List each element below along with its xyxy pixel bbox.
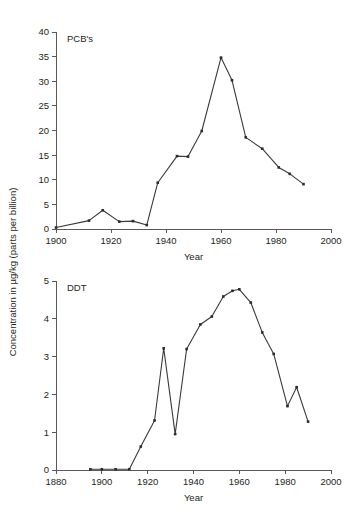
data-point: [295, 386, 298, 389]
series-line: [90, 289, 308, 469]
x-tick-label: 1980: [265, 235, 286, 246]
data-point: [153, 419, 156, 422]
dual-line-chart: 0510152025303540190019201940196019802000…: [0, 0, 344, 517]
y-axis-title-group: Concentration in µg/kg (parts per billio…: [7, 188, 18, 357]
data-series-pcbs: [55, 56, 305, 229]
data-point: [88, 219, 91, 222]
axis-lines: [56, 32, 331, 229]
data-point: [261, 147, 264, 150]
figure-container: 0510152025303540190019201940196019802000…: [0, 0, 344, 517]
x-tick-label: 1940: [183, 476, 204, 487]
x-axis-ticks: 190019201940196019802000: [45, 229, 341, 246]
data-point: [261, 331, 264, 334]
series-line: [56, 58, 304, 228]
x-tick-label: 1960: [229, 476, 250, 487]
y-tick-label: 2: [44, 389, 49, 400]
axis-lines: [56, 281, 331, 470]
data-point: [174, 433, 177, 436]
data-point: [277, 166, 280, 169]
data-point: [101, 468, 104, 471]
y-axis-ticks: 012345: [44, 275, 56, 475]
x-axis-title: Year: [184, 492, 203, 503]
data-point: [185, 348, 188, 351]
x-tick-label: 1900: [45, 235, 66, 246]
x-tick-label: 1980: [275, 476, 296, 487]
data-point: [272, 353, 275, 356]
data-point: [114, 468, 117, 471]
y-tick-label: 15: [38, 150, 49, 161]
y-tick-label: 20: [38, 125, 49, 136]
data-point: [145, 224, 148, 227]
x-tick-label: 1900: [91, 476, 112, 487]
y-tick-label: 35: [38, 51, 49, 62]
data-point: [286, 405, 289, 408]
data-point: [176, 155, 179, 158]
data-point: [249, 301, 252, 304]
data-series-ddt: [89, 288, 309, 471]
data-point: [238, 288, 241, 291]
data-point: [307, 420, 310, 423]
data-point: [244, 136, 247, 139]
data-point: [220, 56, 223, 59]
data-point: [288, 173, 291, 176]
x-tick-label: 2000: [320, 235, 341, 246]
data-point: [139, 445, 142, 448]
data-point: [55, 226, 58, 229]
y-tick-label: 0: [44, 464, 49, 475]
panel-title: DDT: [67, 282, 87, 293]
y-tick-label: 5: [44, 275, 49, 286]
data-point: [222, 295, 225, 298]
data-point: [302, 183, 305, 186]
x-tick-label: 2000: [320, 476, 341, 487]
y-tick-label: 10: [38, 174, 49, 185]
y-tick-label: 1: [44, 427, 49, 438]
data-point: [199, 323, 202, 326]
panel-title: PCB's: [67, 33, 93, 44]
y-tick-label: 30: [38, 76, 49, 87]
x-tick-label: 1880: [45, 476, 66, 487]
y-axis-ticks: 0510152025303540: [38, 26, 56, 234]
data-point: [156, 181, 159, 184]
data-point: [231, 79, 234, 82]
y-tick-label: 5: [44, 199, 49, 210]
y-tick-label: 3: [44, 351, 49, 362]
data-point: [128, 468, 131, 471]
chart-panel-ddt: 0123451880190019201940196019802000YearDD…: [44, 275, 342, 503]
x-tick-label: 1920: [100, 235, 121, 246]
y-axis-title: Concentration in µg/kg (parts per billio…: [7, 188, 18, 357]
y-tick-label: 4: [44, 313, 49, 324]
data-point: [162, 347, 165, 350]
data-point: [231, 290, 234, 293]
chart-panel-pcbs: 0510152025303540190019201940196019802000…: [38, 26, 341, 262]
data-point: [101, 209, 104, 212]
y-tick-label: 40: [38, 26, 49, 37]
data-point: [211, 315, 214, 318]
x-axis-title: Year: [184, 251, 203, 262]
data-point: [118, 220, 121, 223]
data-point: [132, 220, 135, 223]
y-tick-label: 0: [44, 223, 49, 234]
data-point: [200, 130, 203, 133]
y-tick-label: 25: [38, 100, 49, 111]
data-point: [89, 468, 92, 471]
data-point: [187, 155, 190, 158]
x-tick-label: 1920: [137, 476, 158, 487]
x-tick-label: 1940: [155, 235, 176, 246]
x-tick-label: 1960: [210, 235, 231, 246]
x-axis-ticks: 1880190019201940196019802000: [45, 470, 341, 487]
